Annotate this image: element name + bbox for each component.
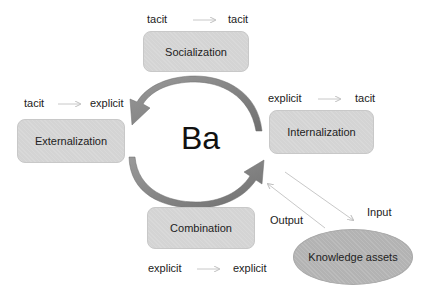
output-label: Output	[270, 214, 303, 226]
combination-box: Combination	[147, 207, 255, 249]
externalization-to-label: explicit	[90, 97, 124, 109]
internalization-to-label: tacit	[355, 92, 375, 104]
cycle-arrow-bottom	[129, 157, 264, 208]
externalization-label: Externalization	[35, 135, 107, 147]
input-label: Input	[367, 206, 391, 218]
ba-center-label: Ba	[181, 120, 220, 157]
combination-label: Combination	[170, 222, 232, 234]
combination-from-label: explicit	[148, 262, 182, 274]
combination-to-label: explicit	[233, 262, 267, 274]
socialization-to-label: tacit	[228, 13, 248, 25]
externalization-from-label: tacit	[24, 97, 44, 109]
socialization-box: Socialization	[143, 31, 249, 72]
knowledge-assets-label: Knowledge assets	[308, 251, 397, 263]
internalization-box: Internalization	[269, 110, 374, 154]
knowledge-assets-ellipse: Knowledge assets	[293, 229, 413, 285]
externalization-box: Externalization	[17, 119, 125, 163]
input-arrow	[285, 172, 353, 220]
socialization-label: Socialization	[165, 46, 227, 58]
socialization-from-label: tacit	[147, 13, 167, 25]
internalization-label: Internalization	[287, 126, 356, 138]
internalization-from-label: explicit	[268, 92, 302, 104]
